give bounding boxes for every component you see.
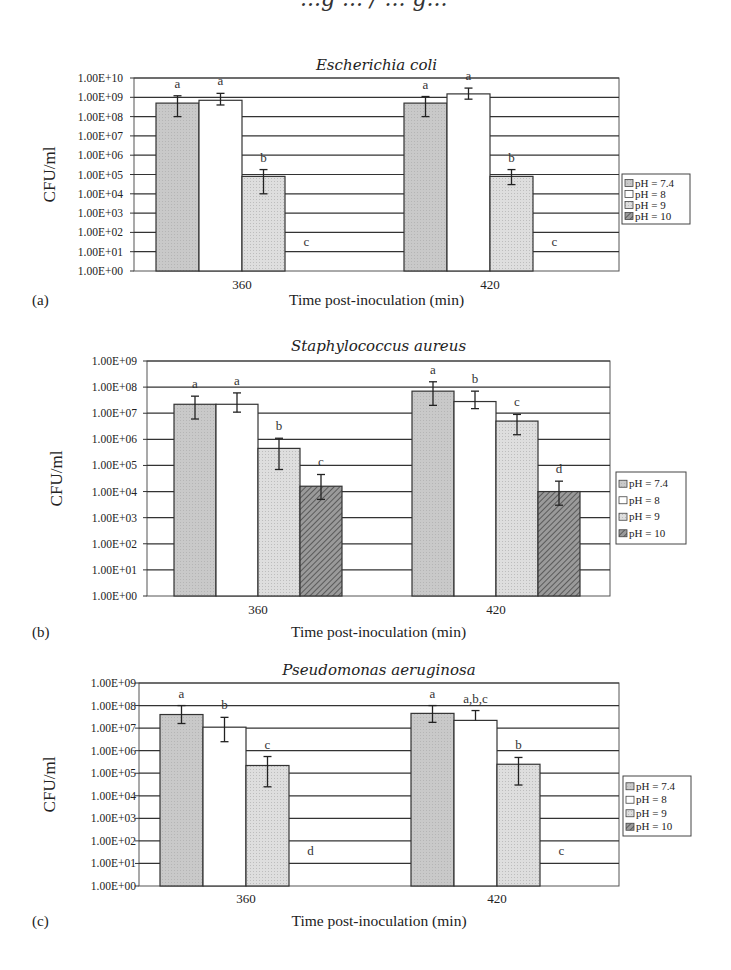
y-tick-label: 1.00E+01 [78, 246, 123, 258]
significance-letter: a [234, 373, 240, 388]
bar-ph-9-420 [490, 176, 533, 271]
chart-panel-3: Pseudomonas aeruginosa1.00E+001.00E+011.… [32, 661, 691, 930]
bar-ph-8-420 [447, 94, 490, 271]
legend-swatch [626, 783, 634, 790]
legend: pH = 7.4pH = 8pH = 9pH = 10 [616, 472, 686, 544]
legend-swatch [619, 497, 627, 504]
bar-ph-8-420 [454, 402, 496, 596]
legend-label: pH = 10 [629, 527, 666, 539]
x-category-label: 420 [486, 602, 506, 617]
significance-letter: a,b,c [463, 691, 488, 706]
chart-title: Pseudomonas aeruginosa [281, 661, 475, 679]
legend-swatch [626, 810, 634, 817]
y-tick-label: 1.00E+04 [92, 486, 137, 498]
significance-letter: b [260, 150, 267, 165]
bar-ph-8-360 [203, 727, 246, 886]
bar-ph-9-360 [258, 448, 300, 596]
bar-ph-7-4-360 [174, 404, 216, 596]
y-axis-label: CFU/ml [40, 756, 59, 812]
legend-swatch [619, 513, 627, 520]
legend-label: pH = 10 [636, 820, 673, 832]
y-tick-label: 1.00E+01 [92, 564, 137, 576]
bar-ph-7-4-420 [404, 103, 447, 271]
x-category-label: 420 [480, 277, 500, 292]
legend: pH = 7.4pH = 8pH = 9pH = 10 [622, 174, 690, 224]
significance-letter: a [175, 76, 181, 91]
legend-swatch [625, 180, 633, 187]
significance-letter: c [265, 737, 271, 752]
x-category-label: 360 [236, 891, 256, 906]
legend-label: pH = 8 [629, 494, 660, 506]
y-tick-label: 1.00E+06 [78, 149, 123, 161]
y-tick-label: 1.00E+02 [92, 538, 137, 550]
y-tick-label: 1.00E+06 [91, 745, 136, 757]
bar-ph-7-4-420 [412, 391, 454, 596]
y-tick-label: 1.00E+00 [91, 880, 136, 892]
significance-letter: d [307, 843, 314, 858]
significance-letter: a [430, 362, 436, 377]
significance-letter: c [304, 234, 310, 249]
chart-panel-2: Staphylococcus aureus1.00E+001.00E+011.0… [32, 337, 686, 641]
legend-swatch [619, 480, 627, 487]
y-tick-label: 1.00E+01 [91, 857, 136, 869]
significance-letter: c [552, 234, 558, 249]
panel-label: (a) [32, 292, 49, 309]
significance-letter: b [221, 697, 228, 712]
y-tick-label: 1.00E+07 [92, 407, 137, 419]
chart-panel-1: Escherichia coli1.00E+001.00E+011.00E+02… [32, 56, 690, 309]
significance-letter: b [508, 150, 515, 165]
y-tick-label: 1.00E+07 [78, 130, 123, 142]
significance-letter: b [276, 418, 283, 433]
legend-swatch [625, 191, 633, 198]
legend-swatch [626, 823, 634, 830]
bar-ph-10-360 [300, 486, 342, 596]
y-tick-label: 1.00E+04 [78, 188, 123, 200]
y-axis-label: CFU/ml [40, 146, 59, 202]
y-tick-label: 1.00E+04 [91, 790, 136, 802]
legend-label: pH = 8 [636, 793, 667, 805]
y-tick-label: 1.00E+08 [78, 111, 123, 123]
significance-letter: b [472, 371, 479, 386]
legend-swatch [626, 796, 634, 803]
legend-label: pH = 10 [635, 210, 672, 222]
chart-title: Staphylococcus aureus [291, 337, 466, 355]
significance-letter: a [179, 686, 185, 701]
bar-ph-10-420 [538, 492, 580, 596]
legend-label: pH = 9 [636, 807, 667, 819]
y-tick-label: 1.00E+09 [92, 355, 137, 367]
x-axis-label: Time post-inoculation (min) [291, 912, 466, 930]
y-axis-label: CFU/ml [47, 450, 66, 506]
y-tick-label: 1.00E+05 [92, 459, 137, 471]
significance-letter: a [430, 686, 436, 701]
y-tick-label: 1.00E+09 [91, 677, 136, 689]
panel-label: (b) [32, 624, 50, 641]
significance-letter: a [192, 376, 198, 391]
significance-letter: a [218, 73, 224, 88]
y-tick-label: 1.00E+02 [78, 226, 123, 238]
y-tick-label: 1.00E+05 [91, 767, 136, 779]
bar-ph-7-4-420 [411, 713, 454, 886]
x-category-label: 360 [248, 602, 268, 617]
x-category-label: 360 [232, 277, 252, 292]
bar-ph-9-420 [496, 421, 538, 596]
significance-letter: b [515, 737, 522, 752]
x-axis-label: Time post-inoculation (min) [289, 291, 464, 309]
y-tick-label: 1.00E+10 [78, 72, 123, 84]
significance-letter: d [556, 461, 563, 476]
legend-label: pH = 9 [629, 510, 660, 522]
y-tick-label: 1.00E+06 [92, 433, 137, 445]
significance-letter: c [318, 454, 324, 469]
legend-label: pH = 7.4 [629, 477, 668, 489]
panel-label: (c) [32, 913, 49, 930]
bar-ph-8-360 [199, 100, 242, 271]
y-tick-label: 1.00E+02 [91, 835, 136, 847]
legend-swatch [619, 530, 627, 537]
y-tick-label: 1.00E+00 [92, 590, 137, 602]
bar-ph-7-4-360 [156, 103, 199, 271]
legend: pH = 7.4pH = 8pH = 9pH = 10 [623, 776, 691, 836]
legend-label: pH = 7.4 [636, 780, 675, 792]
y-tick-label: 1.00E+07 [91, 722, 136, 734]
y-tick-label: 1.00E+08 [92, 381, 137, 393]
y-tick-label: 1.00E+00 [78, 265, 123, 277]
y-tick-label: 1.00E+05 [78, 169, 123, 181]
